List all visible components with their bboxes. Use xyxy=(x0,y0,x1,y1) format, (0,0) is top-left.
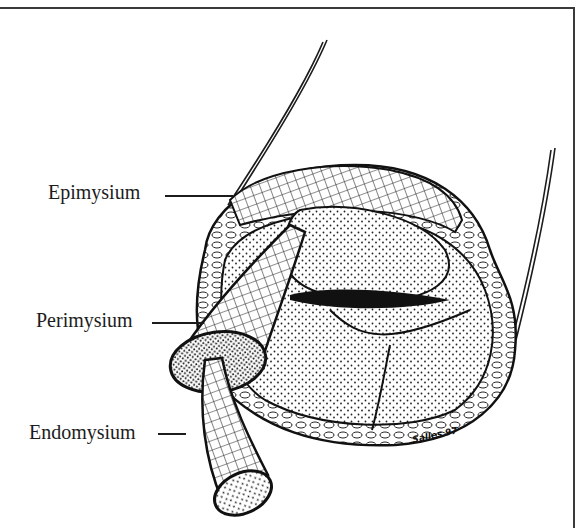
muscle-illustration xyxy=(0,0,583,528)
label-perimysium: Perimysium xyxy=(36,310,133,330)
label-endomysium: Endomysium xyxy=(29,422,136,442)
leader-line-perimysium xyxy=(152,322,204,324)
leader-line-endomysium xyxy=(158,433,186,435)
label-epimysium: Epimysium xyxy=(48,182,140,202)
leader-line-epimysium xyxy=(165,195,233,197)
